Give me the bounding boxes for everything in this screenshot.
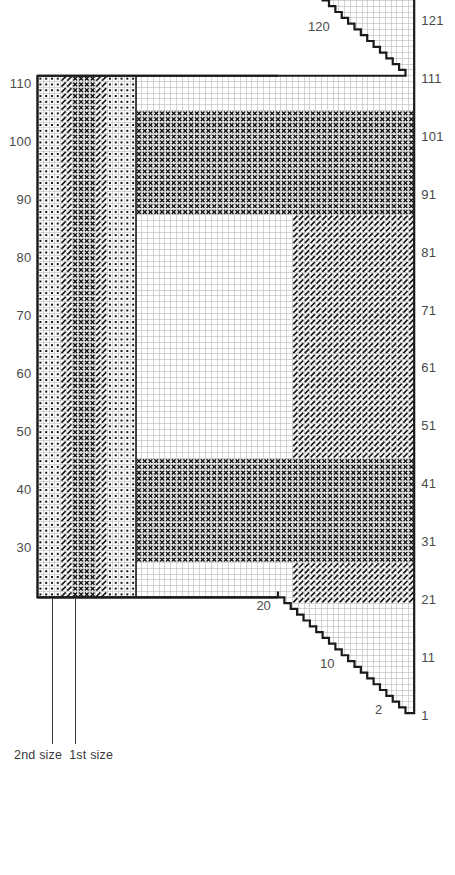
right-axis-tick: 51 xyxy=(421,419,436,432)
inner-row-label: 10 xyxy=(320,657,334,670)
right-axis-tick: 11 xyxy=(421,651,435,664)
left-axis-tick: 40 xyxy=(16,483,31,496)
right-axis-tick: 121 xyxy=(421,14,444,27)
size-marker-label: 1st size xyxy=(69,748,113,762)
knitting-chart: Chart 3 11010090807060504030 13112111110… xyxy=(0,0,455,875)
left-axis-tick: 50 xyxy=(16,425,31,438)
left-axis-tick: 30 xyxy=(16,541,31,554)
size-marker-leader xyxy=(75,599,76,744)
right-axis-tick: 61 xyxy=(421,361,436,374)
right-axis-tick: 111 xyxy=(421,72,442,85)
inner-row-label: 2 xyxy=(375,703,382,716)
left-axis-tick: 110 xyxy=(10,77,32,90)
left-axis-tick: 100 xyxy=(9,135,32,148)
right-axis-tick: 81 xyxy=(421,246,436,259)
right-axis-tick: 91 xyxy=(421,188,436,201)
inner-row-label: 20 xyxy=(256,599,270,612)
right-axis-tick: 31 xyxy=(421,535,436,548)
left-axis-tick: 80 xyxy=(16,251,31,264)
right-axis-tick: 71 xyxy=(421,304,436,317)
right-axis-tick: 41 xyxy=(421,477,436,490)
right-axis-tick: 101 xyxy=(421,130,444,143)
size-marker-label: 2nd size xyxy=(14,748,62,762)
size-marker-leader xyxy=(52,599,53,744)
left-axis-tick: 90 xyxy=(16,193,31,206)
left-axis-tick: 60 xyxy=(16,367,31,380)
chart-grid-canvas xyxy=(0,0,455,875)
left-axis-tick: 70 xyxy=(16,309,31,322)
right-axis-tick: 1 xyxy=(421,709,429,722)
right-axis-tick: 21 xyxy=(421,593,436,606)
inner-row-label: 120 xyxy=(308,20,330,33)
